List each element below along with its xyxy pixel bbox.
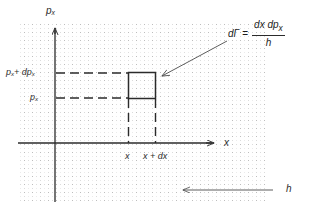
tick-label-lower-momentum: px — [30, 93, 38, 102]
grid-spacing-label: h — [286, 184, 292, 194]
momentum-axis-label-sub: x — [52, 9, 55, 16]
phase-space-element-formula: dΓ = dx dpx h — [228, 19, 285, 48]
tick-right-text: x + dx — [143, 151, 167, 161]
tick-label-right-position: x + dx — [143, 152, 167, 161]
tick-lower-p-sub: x — [35, 95, 38, 102]
tick-left-text: x — [125, 151, 130, 161]
formula-numerator-text: dx dp — [254, 19, 278, 30]
formula-lhs: dΓ — [228, 28, 239, 39]
formula-equals: = — [242, 28, 248, 39]
position-axis-label: x — [224, 138, 229, 148]
tick-label-upper-momentum: px+ dpx — [6, 68, 35, 77]
momentum-axis-label: px — [46, 6, 55, 17]
grid-spacing-text: h — [286, 183, 292, 194]
formula-numerator-sub: x — [279, 23, 283, 33]
formula-lhs-gamma: Γ — [234, 28, 240, 39]
formula-denominator: h — [266, 36, 272, 49]
position-axis-label-text: x — [224, 137, 229, 148]
tick-upper-dp-sub: x — [32, 70, 35, 77]
formula-fraction: dx dpx h — [252, 19, 285, 48]
tick-upper-dp: + dp — [14, 67, 32, 77]
tick-label-left-position: x — [125, 152, 130, 161]
phase-space-diagram: px x px+ dpx px x x + dx h dΓ = dx dpx h — [0, 0, 309, 215]
formula-numerator: dx dpx — [252, 19, 285, 35]
